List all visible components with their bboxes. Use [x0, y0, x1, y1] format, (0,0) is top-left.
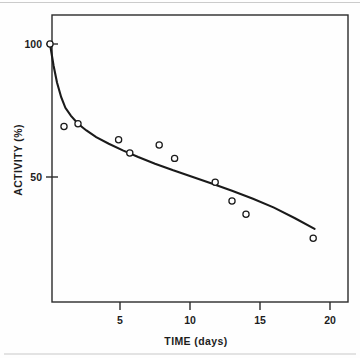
y-ticklabel-100: 100	[24, 38, 42, 50]
y-ticklabel-50: 50	[30, 171, 42, 183]
data-point-marker	[310, 235, 316, 241]
fitted-decay-curve	[50, 44, 315, 229]
data-point-marker	[212, 179, 218, 185]
data-point-marker	[61, 123, 67, 129]
x-ticklabel-10: 10	[184, 314, 196, 326]
x-ticklabel-20: 20	[324, 314, 336, 326]
x-axis-title: TIME (days)	[164, 335, 227, 347]
x-ticklabel-15: 15	[254, 314, 266, 326]
data-point-markers	[47, 41, 316, 241]
data-point-marker	[243, 211, 249, 217]
y-axis-title: ACTIVITY (%)	[12, 124, 24, 196]
data-point-marker	[229, 198, 235, 204]
data-point-marker	[47, 41, 53, 47]
data-point-marker	[156, 142, 162, 148]
data-point-marker	[172, 155, 178, 161]
activity-vs-time-chart: 100 50 5 10 15 20 TIME (days) ACTIVITY (…	[0, 0, 360, 358]
figure-page: 100 50 5 10 15 20 TIME (days) ACTIVITY (…	[0, 0, 360, 358]
x-ticklabel-5: 5	[117, 314, 123, 326]
data-point-marker	[127, 150, 133, 156]
chart-svg: 100 50 5 10 15 20 TIME (days) ACTIVITY (…	[0, 0, 360, 358]
data-point-marker	[116, 137, 122, 143]
plot-frame	[52, 15, 348, 302]
data-point-marker	[75, 121, 81, 127]
x-tick-marks	[120, 302, 330, 310]
